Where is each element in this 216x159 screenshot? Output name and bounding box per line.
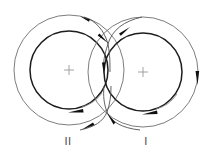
lower-left-separatrix	[80, 112, 107, 130]
vortex-svg-canvas	[0, 0, 216, 159]
vortex-diagram: II I	[0, 0, 216, 159]
vortex-label-ii: II	[56, 136, 80, 147]
left-center-marker	[64, 65, 74, 75]
right-outer-arrowhead	[196, 71, 200, 85]
vortex-label-i: I	[134, 136, 158, 147]
upper-right-separatrix-arrowhead	[119, 27, 130, 36]
left-neck-ascending	[104, 86, 107, 112]
right-center-marker	[138, 67, 148, 77]
